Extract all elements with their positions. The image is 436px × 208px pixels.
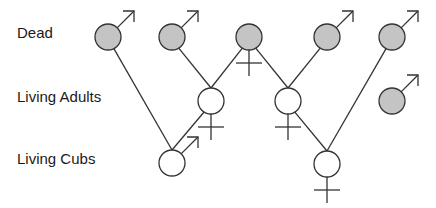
male-symbol-icon	[401, 11, 418, 28]
lineage-edge	[211, 48, 242, 88]
male-symbol-icon	[181, 137, 198, 154]
node-circle	[159, 150, 185, 176]
node-d2	[159, 11, 198, 50]
node-d5	[379, 11, 418, 50]
node-circle	[314, 24, 340, 50]
node-d4	[314, 11, 353, 50]
lineage-edge	[114, 49, 172, 150]
node-circle	[314, 151, 340, 177]
node-a3	[379, 75, 418, 114]
genealogy-diagram	[0, 0, 436, 208]
node-circle	[275, 88, 301, 114]
node-circle	[379, 88, 405, 114]
lineage-edge	[172, 112, 204, 150]
node-circle	[159, 24, 185, 50]
lineage-edge	[179, 48, 211, 88]
node-circle	[379, 24, 405, 50]
lineage-edge	[256, 48, 288, 88]
node-circle	[198, 88, 224, 114]
node-circle	[236, 24, 262, 50]
lineage-edge	[295, 112, 327, 151]
male-symbol-icon	[336, 11, 353, 28]
male-symbol-icon	[181, 11, 198, 28]
lineage-edge	[288, 48, 320, 88]
male-symbol-icon	[117, 11, 134, 28]
node-c2	[314, 151, 340, 203]
lineage-edge	[327, 49, 386, 151]
male-symbol-icon	[401, 75, 418, 92]
node-d1	[95, 11, 134, 50]
node-circle	[95, 24, 121, 50]
